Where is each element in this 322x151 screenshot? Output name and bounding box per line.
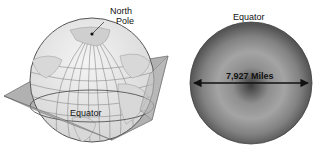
earth-diagram: North Pole Equator Equator 7,927 Miles — [0, 0, 322, 151]
cross-section-equator-label: Equator — [233, 12, 265, 22]
globe — [30, 18, 154, 142]
globe-equator-label: Equator — [70, 108, 102, 118]
north-pole-label-line2: Pole — [116, 16, 134, 26]
diameter-label: 7,927 Miles — [226, 71, 274, 81]
equatorial-cross-section — [190, 22, 312, 144]
north-pole-label-line1: North — [110, 6, 132, 16]
